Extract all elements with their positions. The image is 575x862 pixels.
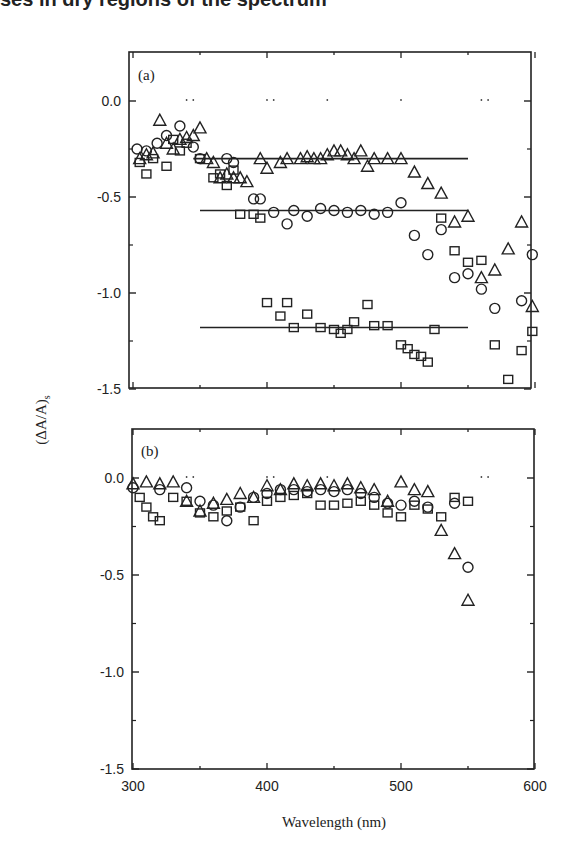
panel-b-label: (b) — [141, 443, 159, 460]
data-point-square — [316, 501, 325, 509]
y-tick-label: -1.5 — [97, 381, 121, 397]
data-point-circle — [289, 485, 299, 495]
data-point-square — [142, 503, 151, 511]
data-point-triangle — [140, 476, 152, 487]
data-point-circle — [463, 269, 473, 279]
data-point-square — [464, 497, 473, 505]
y-tick-label: -0.5 — [97, 189, 121, 205]
data-point-circle — [423, 502, 433, 512]
data-point-circle — [152, 138, 162, 148]
x-tick-label: 600 — [523, 778, 547, 794]
data-point-circle — [302, 211, 312, 221]
panel-a-data-points — [132, 99, 538, 383]
data-point-circle — [302, 487, 312, 497]
data-point-square — [276, 312, 285, 320]
data-point-triangle — [435, 187, 447, 198]
data-point-square — [330, 501, 339, 509]
data-point-triangle — [462, 594, 474, 605]
data-point-circle — [436, 225, 446, 235]
data-point-circle — [132, 144, 142, 154]
panel-b-data-points — [127, 476, 489, 605]
data-point-circle — [490, 303, 500, 313]
data-point-triangle — [526, 300, 538, 311]
y-axis-title: (ΔA/A)s — [33, 395, 52, 444]
data-point-circle — [396, 500, 406, 510]
x-tick-label: 400 — [255, 778, 279, 794]
panel-b-x-axis: 300400500600 — [121, 429, 547, 794]
panel-b-frame — [132, 429, 534, 769]
data-point-circle — [383, 207, 393, 217]
data-point-circle — [316, 204, 326, 214]
data-point-circle — [255, 194, 265, 204]
data-point-square — [370, 322, 379, 330]
data-point-square — [236, 210, 245, 218]
data-point-square — [283, 299, 292, 307]
data-point-square — [142, 170, 151, 178]
x-tick-label: 500 — [389, 778, 413, 794]
data-point-square — [383, 509, 392, 517]
data-point-triangle — [408, 166, 420, 177]
data-point-circle — [342, 207, 352, 217]
y-tick-label: -1.5 — [100, 761, 124, 777]
data-point-square — [450, 247, 459, 255]
data-point-circle — [316, 485, 326, 495]
data-point-square — [517, 347, 526, 355]
data-point-square — [249, 517, 258, 525]
chart-figure: (a) 0.0-0.5-1.0-1.5 (b) 0.0-0.5-1.0-1.5 … — [0, 0, 575, 862]
panel-a-label: (a) — [138, 67, 155, 84]
data-point-square — [303, 310, 312, 318]
y-tick-label: 0.0 — [105, 470, 125, 486]
data-point-square — [343, 499, 352, 507]
data-point-circle — [463, 562, 473, 572]
data-point-square — [430, 325, 439, 333]
panel-a-x-ticks — [133, 52, 535, 388]
y-axis-title-main: (ΔA/A) — [33, 399, 50, 444]
data-point-square — [350, 318, 359, 326]
data-point-triangle — [422, 178, 434, 189]
data-point-square — [397, 513, 406, 521]
data-point-triangle — [362, 160, 374, 171]
panel-a-frame — [129, 52, 531, 388]
data-point-triangle — [449, 216, 461, 227]
data-point-square — [162, 162, 171, 170]
data-point-circle — [175, 121, 185, 131]
data-point-square — [410, 350, 419, 358]
data-point-circle — [450, 273, 460, 283]
data-point-square — [222, 507, 231, 515]
data-point-square — [528, 327, 537, 335]
data-point-square — [423, 358, 432, 366]
data-point-circle — [409, 230, 419, 240]
x-tick-label: 300 — [121, 778, 145, 794]
y-tick-label: -1.0 — [100, 664, 124, 680]
data-point-triangle — [489, 264, 501, 275]
data-point-triangle — [408, 484, 420, 495]
y-tick-label: -0.5 — [100, 567, 124, 583]
data-point-triangle — [435, 524, 447, 535]
data-point-circle — [527, 250, 537, 260]
data-point-circle — [155, 485, 165, 495]
y-axis-title-subscript: s — [41, 395, 52, 399]
data-point-square — [490, 341, 499, 349]
data-point-square — [263, 299, 272, 307]
data-point-triangle — [234, 488, 246, 499]
y-tick-label: 0.0 — [102, 93, 122, 109]
panel-a: (a) 0.0-0.5-1.0-1.5 — [97, 52, 538, 397]
panel-b: (b) 0.0-0.5-1.0-1.5 300400500600 — [100, 429, 547, 794]
data-point-circle — [396, 198, 406, 208]
data-point-triangle — [449, 548, 461, 559]
data-point-triangle — [355, 145, 367, 156]
data-point-square — [504, 375, 513, 383]
x-axis-title: Wavelength (nm) — [282, 814, 386, 831]
data-point-square — [464, 258, 473, 266]
data-point-square — [417, 352, 426, 360]
data-point-square — [363, 301, 372, 309]
data-point-square — [236, 503, 245, 511]
data-point-circle — [128, 483, 138, 493]
data-point-square — [437, 214, 446, 222]
data-point-triangle — [221, 493, 233, 504]
data-point-square — [437, 513, 446, 521]
data-point-circle — [450, 498, 460, 508]
data-point-circle — [342, 485, 352, 495]
data-point-circle — [222, 516, 232, 526]
data-point-circle — [182, 483, 192, 493]
